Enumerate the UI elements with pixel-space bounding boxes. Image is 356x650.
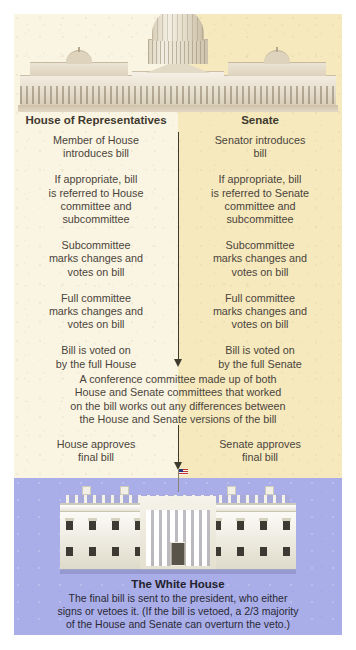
senate-step-3: Subcommitteemarks changes andvotes on bi… <box>178 239 342 279</box>
house-step-2-line-4: subcommittee <box>14 213 178 226</box>
house-step-3-line-1: Subcommittee <box>14 239 178 252</box>
conference-line-3: on the bill works out any differences be… <box>14 400 342 413</box>
capitol-left-roof <box>30 62 128 76</box>
white-house-caption-line-3: of the House and Senate can overturn the… <box>14 618 342 631</box>
white-house-caption-line-1: The final bill is sent to the president,… <box>14 592 342 605</box>
senate-step-3-line-2: marks changes and <box>178 252 342 265</box>
capitol-right-spire <box>276 47 278 52</box>
white-house-chimney-3 <box>227 486 236 495</box>
conference-committee-block: A conference committee made up of bothHo… <box>14 373 342 427</box>
senate-approval-text: Senate approvesfinal bill <box>178 438 342 464</box>
senate-approval-line-1: Senate approves <box>178 438 342 451</box>
house-step-5-line-1: Bill is voted on <box>14 344 178 357</box>
capitol-dome-ribs <box>152 14 204 41</box>
white-house-lower-right-windows <box>214 547 290 556</box>
house-step-1-line-1: Member of House <box>14 134 178 147</box>
house-step-3-line-2: marks changes and <box>14 252 178 265</box>
senate-step-2-line-1: If appropriate, bill <box>178 173 342 186</box>
senate-step-2-line-4: subcommittee <box>178 213 342 226</box>
capitol-dome <box>152 14 204 41</box>
us-flag-icon <box>179 469 188 475</box>
house-step-2: If appropriate, billis referred to House… <box>14 173 178 226</box>
house-approval-line-1: House approves <box>14 438 178 451</box>
house-step-5-line-2: by the full House <box>14 358 178 371</box>
senate-step-3-line-3: votes on bill <box>178 266 342 279</box>
senate-step-1-line-2: bill <box>178 147 342 160</box>
capitol-base-trim <box>18 105 338 112</box>
executive-section: The White House The final bill is sent t… <box>14 478 342 635</box>
senate-step-5-line-2: by the full Senate <box>178 358 342 371</box>
house-step-list: Member of Houseintroduces billIf appropr… <box>14 134 178 371</box>
conference-line-1: A conference committee made up of both <box>14 373 342 386</box>
white-house-upper-right-windows <box>214 521 290 530</box>
white-house-entrance-door <box>171 542 186 566</box>
house-step-2-line-3: committee and <box>14 200 178 213</box>
capitol-left-small-dome <box>66 50 92 64</box>
senate-step-2-line-3: committee and <box>178 200 342 213</box>
capitol-left-spire <box>78 47 80 52</box>
white-house-upper-left-windows <box>66 521 142 530</box>
house-step-4-line-3: votes on bill <box>14 318 178 331</box>
senate-step-4-line-1: Full committee <box>178 292 342 305</box>
white-house-image <box>60 487 296 570</box>
white-house-title: The White House <box>14 578 342 590</box>
house-step-1-line-2: introduces bill <box>14 147 178 160</box>
house-step-4-line-2: marks changes and <box>14 305 178 318</box>
senate-step-1: Senator introducesbill <box>178 134 342 160</box>
house-step-2-line-1: If appropriate, bill <box>14 173 178 186</box>
capitol-dome-drum <box>148 39 208 64</box>
house-step-4-line-1: Full committee <box>14 292 178 305</box>
house-approval-text: House approvesfinal bill <box>14 438 178 464</box>
senate-step-5-line-1: Bill is voted on <box>178 344 342 357</box>
white-house-lower-left-windows <box>66 547 142 556</box>
capitol-dome-colonnade <box>148 40 208 64</box>
house-step-1: Member of Houseintroduces bill <box>14 134 178 160</box>
house-column-heading: House of Representatives <box>14 114 178 126</box>
bill-to-law-diagram: House of Representatives Senate Member o… <box>14 14 342 635</box>
white-house-caption: The final bill is sent to the president,… <box>14 592 342 632</box>
senate-column-heading: Senate <box>178 114 342 126</box>
senate-step-1-line-1: Senator introduces <box>178 134 342 147</box>
senate-step-4-line-3: votes on bill <box>178 318 342 331</box>
senate-step-2-line-2: is referred to Senate <box>178 187 342 200</box>
house-approval-line-2: final bill <box>14 451 178 464</box>
senate-step-4-line-2: marks changes and <box>178 305 342 318</box>
capitol-right-small-dome <box>264 50 290 64</box>
conference-line-2: House and Senate committees that worked <box>14 386 342 399</box>
white-house-caption-line-2: signs or vetoes it. (If the bill is veto… <box>14 605 342 618</box>
capitol-building-image <box>14 14 342 112</box>
house-step-2-line-2: is referred to House <box>14 187 178 200</box>
white-house-chimney-4 <box>265 486 274 495</box>
white-house-ground-line <box>60 569 296 574</box>
house-step-4: Full committeemarks changes andvotes on … <box>14 292 178 332</box>
white-house-chimney-1 <box>82 486 91 495</box>
house-step-3-line-3: votes on bill <box>14 266 178 279</box>
white-house-portico-pediment <box>138 496 218 510</box>
capitol-window-band <box>20 86 336 104</box>
senate-step-5: Bill is voted onby the full Senate <box>178 344 342 370</box>
senate-step-3-line-1: Subcommittee <box>178 239 342 252</box>
senate-approval-line-2: final bill <box>178 451 342 464</box>
capitol-right-roof <box>228 62 326 76</box>
senate-step-2: If appropriate, billis referred to Senat… <box>178 173 342 226</box>
white-house-chimney-2 <box>120 486 129 495</box>
senate-step-4: Full committeemarks changes andvotes on … <box>178 292 342 332</box>
house-step-3: Subcommitteemarks changes andvotes on bi… <box>14 239 178 279</box>
senate-step-list: Senator introducesbillIf appropriate, bi… <box>178 134 342 371</box>
house-step-5: Bill is voted onby the full House <box>14 344 178 370</box>
